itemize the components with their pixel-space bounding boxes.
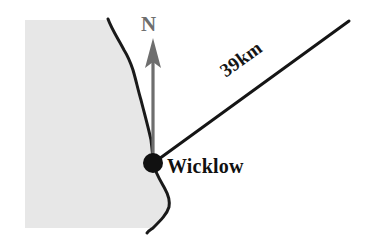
wicklow-place-label: Wicklow — [167, 156, 244, 176]
north-arrow-label: N — [141, 14, 156, 35]
wicklow-dot — [143, 153, 163, 173]
map-figure: N Wicklow 39km — [0, 0, 375, 247]
map-canvas — [0, 0, 375, 247]
